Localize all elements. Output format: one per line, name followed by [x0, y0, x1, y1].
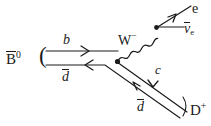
label-initial-meson: B0 [6, 50, 21, 67]
w-boson-symbol: W [118, 33, 131, 48]
label-antid-bottom: d [137, 100, 144, 114]
antineutrino-symbol: ν [184, 21, 190, 36]
c-quark-line [117, 62, 187, 112]
label-b-quark: b [63, 33, 70, 47]
feynman-diagram-canvas [0, 0, 211, 126]
initial-meson-charge: 0 [16, 49, 21, 60]
open-paren: ( [39, 44, 47, 67]
initial-meson-symbol: B [6, 51, 16, 67]
final-meson-symbol: D [190, 102, 201, 118]
label-w-boson: W− [118, 32, 136, 48]
feynman-diagram: B0 ( b d W− e νe c d D+ [0, 0, 211, 126]
lepton-vertex-dot [154, 25, 159, 30]
weak-vertex-dot [115, 59, 120, 64]
label-c-quark: c [155, 63, 161, 76]
dplus-paren-arc [183, 97, 186, 116]
antineutrino-flavor: e [190, 27, 194, 37]
label-antineutrino: νe [184, 22, 194, 36]
final-meson-charge: + [201, 100, 207, 111]
label-electron: e [192, 2, 198, 16]
antid-bottom-symbol: d [137, 99, 144, 114]
w-boson-charge: − [131, 31, 136, 41]
label-final-meson: D+ [190, 101, 206, 118]
antid-top-symbol: d [62, 69, 69, 84]
label-antid-top: d [62, 70, 69, 84]
